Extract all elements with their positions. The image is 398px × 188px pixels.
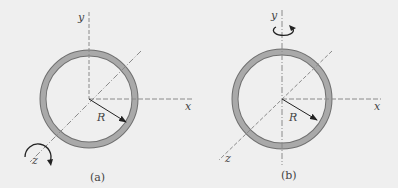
- radius-label-a: R: [96, 111, 105, 124]
- z-label-b: z: [224, 152, 231, 165]
- rotation-arrow-z-icon: [25, 144, 51, 162]
- z-label-a: z: [31, 154, 38, 167]
- radius-label-b: R: [288, 111, 297, 124]
- x-label-a: x: [185, 100, 192, 113]
- y-label-a: y: [77, 11, 85, 24]
- caption-b: (b): [281, 169, 297, 182]
- x-label-b: x: [374, 100, 381, 113]
- figure: y x z R (a) y x z R (b): [0, 0, 398, 188]
- panel-a: y x z R (a): [25, 11, 192, 184]
- panel-b: y x z R (b): [219, 9, 381, 182]
- radius-arrow-b: [282, 99, 317, 120]
- y-label-b: y: [270, 9, 278, 22]
- radius-arrow-a: [89, 99, 126, 122]
- caption-a: (a): [90, 171, 105, 184]
- thin-ring-diagram: y x z R (a) y x z R (b): [0, 0, 398, 188]
